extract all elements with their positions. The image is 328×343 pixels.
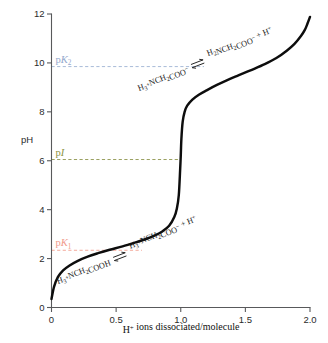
y-tick-label-2: 2 [39, 253, 44, 264]
y-tick-label-12: 12 [34, 8, 45, 19]
x-tick-label-1.5: 1.5 [239, 314, 252, 325]
titration-plot: 024681012 00.51.01.52.0 pH H+ ions disso… [0, 0, 328, 343]
reference-label-pI: pI [56, 147, 65, 158]
y-tick-label-6: 6 [39, 155, 44, 166]
y-tick-label-10: 10 [34, 57, 45, 68]
y-tick-label-4: 4 [39, 204, 44, 215]
plot-background [0, 0, 328, 343]
y-tick-label-8: 8 [39, 106, 44, 117]
x-tick-label-2.0: 2.0 [303, 314, 316, 325]
x-tick-label-0.5: 0.5 [110, 314, 123, 325]
x-tick-label-0: 0 [49, 314, 54, 325]
y-tick-label-0: 0 [39, 302, 44, 313]
titration-curve-figure: 024681012 00.51.01.52.0 pH H+ ions disso… [0, 0, 328, 343]
y-axis-title: pH [21, 134, 33, 145]
